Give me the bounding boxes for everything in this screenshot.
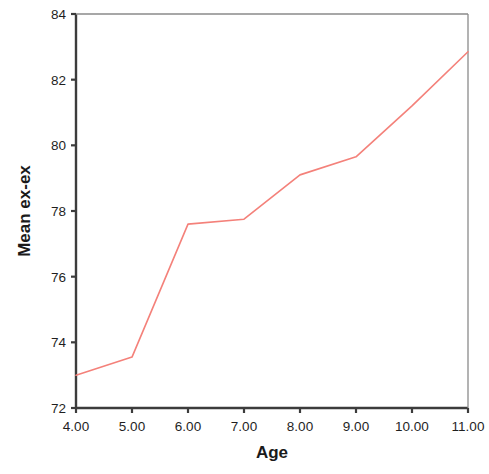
y-tick-label: 76 bbox=[32, 269, 66, 284]
x-tick-label: 7.00 bbox=[216, 419, 272, 434]
x-tick-label: 10.00 bbox=[384, 419, 440, 434]
x-tick-label: 5.00 bbox=[104, 419, 160, 434]
series-mean-ex-ex bbox=[76, 52, 468, 375]
x-tick-label: 8.00 bbox=[272, 419, 328, 434]
data-series-line bbox=[76, 52, 468, 375]
x-tick-label: 4.00 bbox=[48, 419, 104, 434]
y-tick-label: 74 bbox=[32, 335, 66, 350]
x-tick-label: 6.00 bbox=[160, 419, 216, 434]
x-axis-title: Age bbox=[76, 443, 468, 463]
y-tick-label: 78 bbox=[32, 204, 66, 219]
y-tick-label: 80 bbox=[32, 138, 66, 153]
y-tick-label: 82 bbox=[32, 72, 66, 87]
line-chart: Mean ex-ex Age 72747678808284 4.005.006.… bbox=[0, 0, 489, 474]
x-tick-label: 9.00 bbox=[328, 419, 384, 434]
y-tick-label: 84 bbox=[32, 7, 66, 22]
plot-canvas bbox=[0, 0, 489, 474]
y-tick-label: 72 bbox=[32, 401, 66, 416]
x-tick-label: 11.00 bbox=[440, 419, 489, 434]
